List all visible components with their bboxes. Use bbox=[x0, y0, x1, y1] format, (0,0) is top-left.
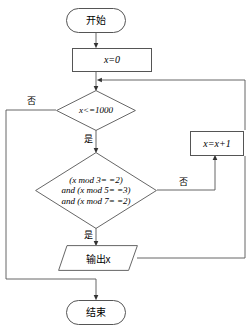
node-condition-mod: (x mod 3= =2) and (x mod 5= =3) and (x m… bbox=[35, 152, 157, 229]
node-condition-mod-label: (x mod 3= =2) and (x mod 5= =3) and (x m… bbox=[35, 152, 157, 229]
condition-mod-line-3: and (x mod 7= =2) bbox=[61, 196, 130, 207]
condition-mod-line-1: (x mod 3= =2) bbox=[69, 175, 122, 186]
node-end-label: 结束 bbox=[86, 307, 106, 318]
condition-loop-text: x<=1000 bbox=[79, 105, 113, 116]
edge-label-cond2-yes: 是 bbox=[84, 231, 93, 240]
node-end: 结束 bbox=[66, 300, 126, 325]
edge-label-cond2-no: 否 bbox=[179, 178, 188, 187]
node-start: 开始 bbox=[66, 8, 126, 33]
edge-label-cond1-yes: 是 bbox=[84, 135, 93, 144]
node-condition-loop: x<=1000 bbox=[56, 90, 136, 131]
node-output: 输出x bbox=[58, 245, 138, 271]
node-increment: x=x+1 bbox=[190, 131, 244, 156]
node-init: x=0 bbox=[72, 48, 152, 72]
node-init-label: x=0 bbox=[104, 54, 120, 65]
node-output-label: 输出x bbox=[58, 245, 138, 271]
node-increment-label: x=x+1 bbox=[203, 138, 230, 149]
condition-mod-line-2: and (x mod 5= =3) bbox=[61, 185, 130, 196]
flowchart-canvas: 开始 x=0 x<=1000 (x mod 3= =2) and (x mod … bbox=[0, 0, 251, 335]
edge-label-cond1-no: 否 bbox=[27, 97, 36, 106]
node-start-label: 开始 bbox=[86, 15, 106, 26]
node-condition-loop-label: x<=1000 bbox=[56, 90, 136, 131]
